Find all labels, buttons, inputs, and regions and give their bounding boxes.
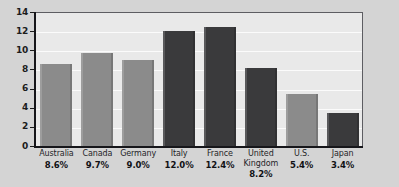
bar-highlight-edge (286, 94, 288, 146)
category-label-group[interactable]: Italy12.0% (159, 149, 200, 170)
bar[interactable] (122, 60, 154, 146)
category-label-group[interactable]: Germany9.0% (118, 149, 159, 170)
bar[interactable] (81, 53, 113, 146)
category-label-group[interactable]: Canada9.7% (77, 149, 118, 170)
y-tick-label: 8 (22, 65, 28, 74)
bars-group (36, 13, 362, 146)
bar-shadow-edge (111, 53, 113, 146)
category-value-label: 8.2% (240, 169, 281, 179)
bar-shadow-edge (234, 27, 236, 146)
category-name: Canada (77, 149, 118, 159)
y-tick-label: 0 (22, 142, 28, 151)
bar-shadow-edge (193, 31, 195, 146)
bar-shadow-edge (357, 113, 359, 146)
category-name: Germany (118, 149, 159, 159)
category-value-label: 5.4% (281, 160, 322, 170)
category-value-label: 9.7% (77, 160, 118, 170)
bar[interactable] (163, 31, 195, 146)
y-tick-label: 4 (22, 103, 28, 112)
bar-highlight-edge (163, 31, 165, 146)
category-value-label: 12.4% (200, 160, 241, 170)
bar-highlight-edge (40, 64, 42, 146)
bar[interactable] (40, 64, 72, 146)
y-tick-label: 10 (16, 46, 28, 55)
bar-shadow-edge (316, 94, 318, 146)
category-name: Japan (322, 149, 363, 159)
y-tick-label: 14 (16, 8, 28, 17)
bar-shadow-edge (152, 60, 154, 146)
category-label-group[interactable]: France12.4% (200, 149, 241, 170)
category-name: United Kingdom (240, 149, 281, 168)
bar-highlight-edge (327, 113, 329, 146)
y-tick-label: 12 (16, 27, 28, 36)
category-name: France (200, 149, 241, 159)
bar[interactable] (204, 27, 236, 146)
x-axis-line (34, 146, 363, 148)
y-tick-label: 2 (22, 122, 28, 131)
bar-highlight-edge (122, 60, 124, 146)
category-name: U.S. (281, 149, 322, 159)
bar[interactable] (286, 94, 318, 146)
bar-chart: 02468101214 Australia8.6%Canada9.7%Germa… (0, 0, 399, 187)
category-name: Italy (159, 149, 200, 159)
category-value-label: 9.0% (118, 160, 159, 170)
bar-highlight-edge (204, 27, 206, 146)
bar-shadow-edge (70, 64, 72, 146)
category-value-label: 12.0% (159, 160, 200, 170)
x-axis-category-labels: Australia8.6%Canada9.7%Germany9.0%Italy1… (36, 149, 363, 187)
y-axis: 02468101214 (0, 0, 34, 187)
category-label-group[interactable]: United Kingdom8.2% (240, 149, 281, 179)
category-label-group[interactable]: Australia8.6% (36, 149, 77, 170)
category-name: Australia (36, 149, 77, 159)
bar[interactable] (245, 68, 277, 146)
bar-highlight-edge (81, 53, 83, 146)
plot-area (36, 12, 363, 146)
category-label-group[interactable]: Japan3.4% (322, 149, 363, 170)
bar-highlight-edge (245, 68, 247, 146)
category-label-group[interactable]: U.S.5.4% (281, 149, 322, 170)
category-value-label: 3.4% (322, 160, 363, 170)
y-tick-label: 6 (22, 84, 28, 93)
bar-shadow-edge (275, 68, 277, 146)
bar[interactable] (327, 113, 359, 146)
category-value-label: 8.6% (36, 160, 77, 170)
